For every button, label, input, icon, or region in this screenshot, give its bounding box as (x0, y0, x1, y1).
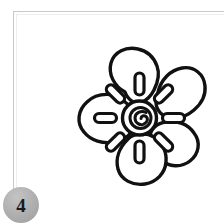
flower-line-art-svg (62, 36, 216, 194)
stamen-e (163, 114, 185, 123)
flower-illustration (62, 36, 216, 194)
stamen-n (135, 73, 144, 95)
stamen-s (135, 141, 144, 163)
page-number-badge[interactable]: 4 (3, 187, 39, 223)
framed-artwork-card[interactable] (13, 11, 224, 211)
canvas: 4 (0, 0, 224, 224)
flower-center-group (123, 101, 157, 135)
page-number-label: 4 (16, 196, 26, 215)
stamen-w (95, 114, 117, 123)
